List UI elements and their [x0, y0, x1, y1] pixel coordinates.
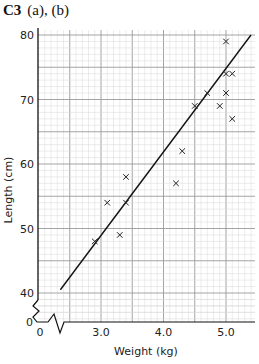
- line-of-best-fit: [60, 35, 251, 290]
- x-axis-label: Weight (kg): [114, 345, 178, 358]
- y-tick-labels: 40506070800: [20, 29, 34, 329]
- y-tick-label: 50: [20, 223, 34, 236]
- x-tick-labels: 03.04.05.0: [37, 326, 235, 339]
- y-tick-label: 40: [20, 287, 34, 300]
- y-tick-label: 70: [20, 94, 34, 107]
- x-tick-label: 0: [37, 326, 44, 339]
- x-tick-label: 4.0: [155, 326, 173, 339]
- scatter-chart: 4050607080003.04.05.0Weight (kg)Length (…: [0, 0, 259, 364]
- x-tick-label: 5.0: [217, 326, 235, 339]
- y-tick-label: 60: [20, 158, 34, 171]
- x-tick-label: 3.0: [92, 326, 110, 339]
- y-tick-label: 80: [20, 29, 34, 42]
- y-axis-label: Length (cm): [2, 157, 15, 224]
- y-tick-label: 0: [26, 316, 33, 329]
